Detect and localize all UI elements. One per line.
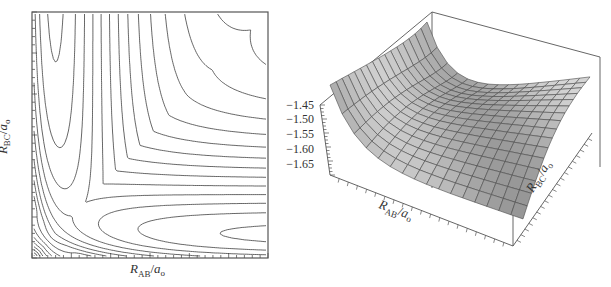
contour-line (34, 14, 266, 256)
contour-line (34, 14, 266, 256)
contour-line (40, 14, 266, 250)
contour-line (34, 14, 266, 256)
z-tick-label: −1.45 (270, 98, 314, 113)
z-tick-label: −1.60 (270, 142, 314, 157)
contour-line (34, 14, 266, 256)
surface-mesh (330, 22, 590, 219)
surface-plot-panel: −1.45 −1.50 −1.55 −1.60 −1.65 RAB/ao RBC… (290, 0, 611, 287)
contour-line (34, 14, 266, 256)
contour-y-axis-label: RBC/ao (0, 120, 12, 155)
contour-line (34, 14, 266, 256)
contour-line (34, 14, 266, 256)
contour-line (34, 255, 35, 256)
z-tick-label: −1.65 (270, 157, 314, 172)
z-tick-label: −1.55 (270, 127, 314, 142)
contour-line (34, 14, 266, 256)
contour-line (34, 14, 266, 256)
contour-plot-panel: RAB/ao RBC/ao (0, 0, 290, 287)
contour-line (35, 14, 266, 255)
contour-line (34, 14, 266, 256)
contour-x-axis-label: RAB/ao (130, 261, 165, 279)
surface-plot (290, 0, 611, 287)
contour-plot (0, 0, 290, 287)
contour-line (48, 14, 266, 242)
contour-lines (34, 14, 266, 256)
z-tick-label: −1.50 (270, 112, 314, 127)
